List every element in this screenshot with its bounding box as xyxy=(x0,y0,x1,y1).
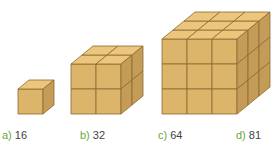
cube-2x2 xyxy=(71,46,143,114)
cube-1x1 xyxy=(18,80,54,114)
option-a[interactable]: a) 16 xyxy=(2,129,27,141)
option-c-value: 64 xyxy=(170,129,182,141)
option-c-letter: c) xyxy=(158,129,167,141)
option-a-value: 16 xyxy=(15,129,27,141)
option-d[interactable]: d) 81 xyxy=(236,129,261,141)
option-b-value: 32 xyxy=(93,129,105,141)
option-a-letter: a) xyxy=(2,129,12,141)
option-d-letter: d) xyxy=(236,129,246,141)
option-c[interactable]: c) 64 xyxy=(158,129,182,141)
option-d-value: 81 xyxy=(249,129,261,141)
option-b[interactable]: b) 32 xyxy=(80,129,105,141)
cube-3x3 xyxy=(162,12,270,114)
option-b-letter: b) xyxy=(80,129,90,141)
